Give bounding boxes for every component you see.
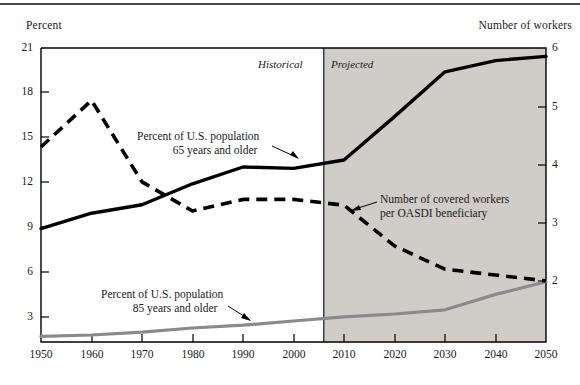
xtick-1950: 1950 bbox=[19, 348, 63, 360]
era-label-projected: Projected bbox=[331, 58, 373, 70]
annotation-pop85: Percent of U.S. population 85 years and … bbox=[101, 287, 223, 315]
ytick-right-2: 2 bbox=[552, 274, 574, 286]
left-tick-marks bbox=[41, 92, 49, 317]
xtick-1980: 1980 bbox=[171, 348, 215, 360]
xtick-2040: 2040 bbox=[474, 348, 518, 360]
xtick-2000: 2000 bbox=[272, 348, 316, 360]
annotation-workers: Number of covered workers per OASDI bene… bbox=[380, 192, 509, 220]
ytick-right-4: 4 bbox=[552, 158, 574, 170]
xtick-2030: 2030 bbox=[423, 348, 467, 360]
xtick-1990: 1990 bbox=[221, 348, 265, 360]
annotation-pop85-line1: Percent of U.S. population bbox=[101, 288, 223, 300]
ytick-left-9: 9 bbox=[11, 220, 33, 232]
annotation-pop65-line1: Percent of U.S. population bbox=[137, 130, 259, 142]
xtick-1960: 1960 bbox=[70, 348, 114, 360]
ytick-right-6: 6 bbox=[552, 41, 574, 53]
chart-figure: Percent Number of workers bbox=[0, 0, 580, 385]
ytick-right-3: 3 bbox=[552, 216, 574, 228]
ytick-left-18: 18 bbox=[11, 85, 33, 97]
ytick-left-12: 12 bbox=[11, 175, 33, 187]
xtick-2020: 2020 bbox=[373, 348, 417, 360]
xtick-2010: 2010 bbox=[322, 348, 366, 360]
era-label-historical: Historical bbox=[258, 58, 303, 70]
ytick-left-3: 3 bbox=[11, 310, 33, 322]
ytick-right-5: 5 bbox=[552, 100, 574, 112]
xtick-2050: 2050 bbox=[524, 348, 568, 360]
annotation-pop65-line2: 65 years and older bbox=[137, 143, 259, 157]
ytick-left-21: 21 bbox=[11, 41, 33, 53]
ytick-left-6: 6 bbox=[11, 265, 33, 277]
annotation-workers-line1: Number of covered workers bbox=[380, 193, 509, 205]
annotation-pop85-line2: 85 years and older bbox=[101, 301, 223, 315]
xtick-1970: 1970 bbox=[120, 348, 164, 360]
annotation-workers-line2: per OASDI beneficiary bbox=[380, 206, 509, 220]
annotation-pop65: Percent of U.S. population 65 years and … bbox=[137, 129, 259, 157]
ytick-left-15: 15 bbox=[11, 130, 33, 142]
